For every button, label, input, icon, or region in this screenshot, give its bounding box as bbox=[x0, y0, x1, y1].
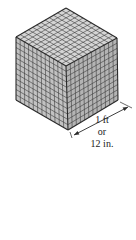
dimension-label-line2: or bbox=[82, 126, 122, 138]
arrowhead-left-icon bbox=[74, 131, 79, 135]
extension-line-left bbox=[70, 132, 72, 138]
arrowhead-right-icon bbox=[123, 107, 128, 111]
extension-line-right bbox=[120, 102, 132, 108]
dimension-label-line3: 12 in. bbox=[82, 138, 122, 150]
dimension-label-line1: 1 ft bbox=[82, 114, 122, 126]
